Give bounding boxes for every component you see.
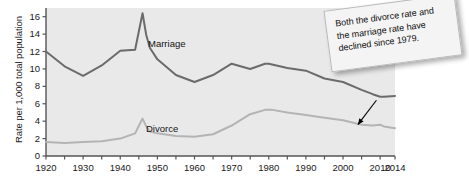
annotation-arrow-group [358,100,377,124]
y-tick-label: 8 [18,81,40,91]
y-tick-label: 12 [18,47,40,57]
x-tick-label: 1920 [35,163,56,173]
x-tick-label: 2014 [384,163,405,173]
chart-figure: Rate per 1,000 total population 02468101… [0,0,469,193]
callout-note-text: Both the divorce rate and the marriage r… [334,3,451,55]
y-tick-label: 2 [18,134,40,144]
y-tick-label: 10 [18,64,40,74]
x-tick-label: 1990 [295,163,316,173]
y-tick-label: 0 [18,151,40,161]
x-tick-label: 1950 [147,163,168,173]
series-label-divorce: Divorce [146,123,178,134]
x-tick-label: 1970 [221,163,242,173]
y-tick-label: 14 [18,29,40,39]
x-tick-label: 1940 [110,163,131,173]
x-tick-label: 1930 [73,163,94,173]
x-tick-label: 1960 [184,163,205,173]
x-tick-label: 1980 [258,163,279,173]
series-label-marriage: Marriage [148,38,186,49]
y-tick-label: 6 [18,99,40,109]
y-tick-label: 4 [18,116,40,126]
y-tick-label: 16 [18,12,40,22]
x-tick-label: 2000 [332,163,353,173]
